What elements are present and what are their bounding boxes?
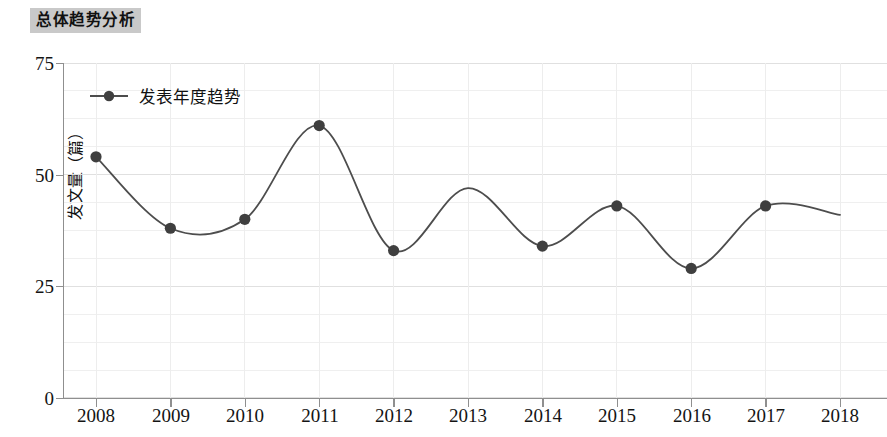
x-tick-2015: 2015 (598, 405, 636, 427)
x-axis-tick-labels: 2008 2009 2010 2011 2012 2013 2014 2015 … (0, 405, 887, 433)
x-tick-2017: 2017 (747, 405, 785, 427)
legend-line-marker-icon (88, 88, 130, 104)
x-tick-2016: 2016 (673, 405, 711, 427)
data-point-2008[interactable] (90, 151, 101, 162)
series-markers (90, 120, 771, 274)
chart-svg (63, 63, 887, 398)
x-tick-2011: 2011 (301, 405, 338, 427)
y-tick-50: 50 (35, 166, 54, 185)
data-point-2016[interactable] (686, 263, 697, 274)
data-point-2012[interactable] (388, 245, 399, 256)
x-tick-2018: 2018 (821, 405, 859, 427)
data-point-2010[interactable] (239, 214, 250, 225)
data-point-2014[interactable] (537, 241, 548, 252)
legend-label: 发表年度趋势 (139, 84, 241, 108)
x-tick-2013: 2013 (449, 405, 487, 427)
data-point-2009[interactable] (165, 223, 176, 234)
x-tick-2010: 2010 (226, 405, 264, 427)
plot-area (63, 63, 887, 398)
data-point-2011[interactable] (314, 120, 325, 131)
y-tick-25: 25 (35, 277, 54, 296)
y-tick-75: 75 (35, 54, 54, 73)
x-tick-2012: 2012 (375, 405, 413, 427)
x-tick-2014: 2014 (524, 405, 562, 427)
data-point-2017[interactable] (760, 200, 771, 211)
x-tick-2009: 2009 (152, 405, 190, 427)
chart-page: 总体趋势分析 75 50 25 0 发文量（篇） (0, 0, 887, 437)
y-axis-tick-labels: 75 50 25 0 (0, 0, 54, 437)
data-point-2015[interactable] (611, 200, 622, 211)
x-tick-2008: 2008 (77, 405, 115, 427)
grid-minor (63, 91, 887, 370)
chart-legend: 发表年度趋势 (88, 84, 241, 108)
